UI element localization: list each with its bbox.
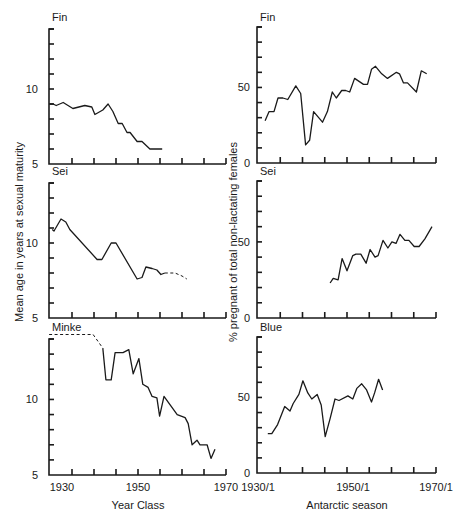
left-middle-series-line xyxy=(165,273,187,279)
right-top-axes xyxy=(257,27,436,163)
left-x-axis-title: Year Class xyxy=(112,499,165,511)
x-tick-label-left: 1930 xyxy=(50,481,74,493)
y-tick-label: 10 xyxy=(26,83,38,95)
left-top-axes xyxy=(49,29,226,164)
right-top-series-line xyxy=(265,66,427,145)
left-bottom-series-line xyxy=(49,335,103,349)
x-tick-label-right: 1950/1 xyxy=(336,481,370,493)
right-top-title: Fin xyxy=(260,11,275,23)
left-bottom-series-line xyxy=(103,348,215,458)
x-tick-label-right: 1970/1 xyxy=(419,481,453,493)
right-middle-axes xyxy=(257,181,436,318)
left-y-axis-title: Mean age in years at sexual maturity xyxy=(13,142,25,322)
y-tick-label: 0 xyxy=(244,467,250,479)
right-middle-series-line xyxy=(330,227,432,283)
left-bottom-title: Minke xyxy=(52,321,81,333)
figure-canvas: 510Fin510Sei510Minke050Fin050Sei050Blue1… xyxy=(0,0,467,521)
y-tick-label: 0 xyxy=(244,312,250,324)
right-x-axis-title: Antarctic season xyxy=(306,499,387,511)
left-middle-title: Sei xyxy=(52,165,68,177)
x-tick-label-left: 1970 xyxy=(214,481,238,493)
y-tick-label: 0 xyxy=(244,157,250,169)
y-tick-label: 5 xyxy=(32,312,38,324)
y-tick-label: 10 xyxy=(26,393,38,405)
x-tick-label-right: 1930/1 xyxy=(241,481,275,493)
left-middle-series-line xyxy=(52,219,165,279)
y-tick-label: 50 xyxy=(238,81,250,93)
right-bottom-axes xyxy=(257,337,436,473)
y-tick-label: 5 xyxy=(32,469,38,481)
y-tick-label: 5 xyxy=(32,158,38,170)
left-top-series-line xyxy=(50,103,162,150)
y-tick-label: 50 xyxy=(238,391,250,403)
left-top-title: Fin xyxy=(52,11,67,23)
right-y-axis-title: % pregnant of total non-lactating female… xyxy=(227,142,239,342)
x-tick-label-left: 1950 xyxy=(126,481,150,493)
right-bottom-series-line xyxy=(268,379,383,436)
left-middle-axes xyxy=(49,183,226,318)
left-bottom-axes xyxy=(49,339,226,475)
y-tick-label: 10 xyxy=(26,237,38,249)
right-middle-title: Sei xyxy=(260,165,276,177)
right-bottom-title: Blue xyxy=(260,321,282,333)
y-tick-label: 50 xyxy=(238,236,250,248)
